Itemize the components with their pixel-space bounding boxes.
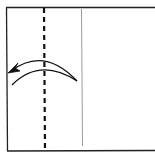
paper-bottom-edge — [7, 151, 155, 152]
fold-arrow-icon — [8, 61, 77, 85]
existing-crease-line — [82, 9, 83, 146]
paper-left-edge — [7, 7, 8, 151]
paper-edges — [6, 7, 155, 151]
valley-fold-line — [44, 8, 45, 151]
origami-fold-diagram — [0, 0, 155, 156]
arrowhead-icon — [8, 63, 20, 73]
